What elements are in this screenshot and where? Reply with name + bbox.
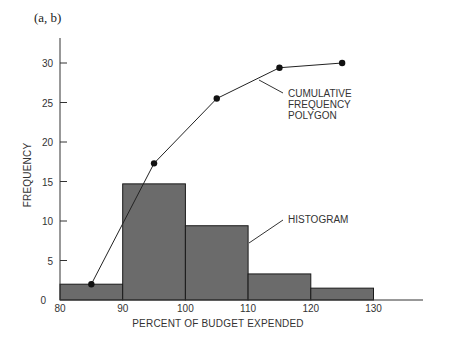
data-point-marker bbox=[339, 60, 345, 66]
y-tick-label: 0 bbox=[40, 295, 46, 306]
histogram-bar bbox=[248, 274, 311, 300]
data-point-marker bbox=[276, 65, 282, 71]
y-tick-label: 25 bbox=[42, 98, 54, 109]
annotation-cumulative-frequency-polygon: FREQUENCY bbox=[288, 99, 351, 110]
histogram-bar bbox=[123, 184, 186, 300]
histogram-bar bbox=[185, 226, 248, 300]
y-tick-label: 5 bbox=[47, 256, 53, 267]
x-tick-label: 130 bbox=[365, 303, 382, 314]
annotation-cumulative-frequency-polygon: CUMULATIVE bbox=[288, 88, 352, 99]
annotation-histogram: HISTOGRAM bbox=[288, 214, 348, 225]
histogram-bar bbox=[311, 288, 374, 300]
histogram-chart: 0510152025308090100110120130PERCENT OF B… bbox=[0, 0, 449, 345]
annotation-cumulative-frequency-polygon: POLYGON bbox=[288, 110, 337, 121]
y-tick-label: 20 bbox=[42, 137, 54, 148]
data-point-marker bbox=[151, 160, 157, 166]
annotation-leader-line bbox=[249, 220, 283, 243]
y-tick-label: 15 bbox=[42, 177, 54, 188]
x-tick-label: 110 bbox=[240, 303, 256, 314]
x-tick-label: 120 bbox=[302, 303, 319, 314]
annotation-leader-line bbox=[259, 80, 283, 93]
data-point-marker bbox=[214, 95, 220, 101]
y-tick-label: 30 bbox=[42, 58, 54, 69]
x-tick-label: 90 bbox=[117, 303, 129, 314]
y-tick-label: 10 bbox=[42, 216, 54, 227]
x-axis-title: PERCENT OF BUDGET EXPENDED bbox=[132, 318, 304, 329]
x-tick-label: 100 bbox=[177, 303, 194, 314]
data-point-marker bbox=[88, 281, 94, 287]
y-axis-title: FREQUENCY bbox=[22, 143, 33, 208]
x-tick-label: 80 bbox=[54, 303, 66, 314]
